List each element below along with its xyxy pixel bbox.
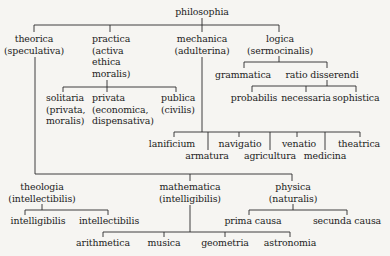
node-label: ratio disserendi [285, 69, 358, 81]
node-grammatica: grammatica [215, 69, 271, 81]
node-intelligibilis: intelligibilis [11, 215, 66, 227]
node-label: medicina [304, 150, 347, 162]
node-label: theorica [4, 33, 64, 45]
node-label: intellectibilis [79, 215, 139, 227]
node-label: geometria [201, 237, 249, 249]
node-arithmetica: arithmetica [76, 237, 130, 249]
node-sublabel: ethica [92, 56, 130, 68]
node-sublabel: moralis) [46, 115, 85, 127]
node-geometria: geometria [201, 237, 249, 249]
node-label: logica [247, 33, 313, 45]
node-theatrica: theatrica [338, 138, 380, 150]
node-publica: publica (civilis) [161, 92, 195, 115]
node-label: philosophia [175, 6, 229, 18]
node-astronomia: astronomia [264, 237, 316, 249]
node-physica: physica (naturalis) [269, 181, 318, 204]
node-label: agricultura [244, 150, 296, 162]
node-label: solitaria [46, 92, 85, 104]
node-label: sophistica [333, 92, 380, 104]
node-label: mathematica [159, 181, 221, 193]
node-label: astronomia [264, 237, 316, 249]
node-label: necessaria [281, 92, 331, 104]
node-sublabel: (sermocinalis) [247, 45, 313, 57]
node-lanificium: lanificium [149, 138, 195, 150]
node-sophistica: sophistica [333, 92, 380, 104]
node-label: musica [148, 237, 181, 249]
node-sublabel: (civilis) [161, 104, 195, 116]
node-venatio: venatio [282, 138, 316, 150]
node-sublabel: (speculativa) [4, 45, 64, 57]
node-label: arithmetica [76, 237, 130, 249]
node-agricultura: agricultura [244, 150, 296, 162]
node-sublabel: (intellectibilis) [8, 193, 75, 205]
node-ratio-disserendi: ratio disserendi [285, 69, 358, 81]
node-privata: privata (economica, dispensativa) [92, 92, 154, 127]
node-sublabel: (activa [92, 45, 130, 57]
node-label: secunda causa [313, 215, 381, 227]
node-navigatio: navigatio [218, 138, 261, 150]
node-philosophia: philosophia [175, 6, 229, 18]
node-necessaria: necessaria [281, 92, 331, 104]
node-sublabel: moralis) [92, 68, 130, 80]
node-label: probabilis [231, 92, 278, 104]
philosophia-tree-diagram: philosophia theorica (speculativa) pract… [0, 0, 390, 256]
node-label: theatrica [338, 138, 380, 150]
node-intellectibilis: intellectibilis [79, 215, 139, 227]
node-label: intelligibilis [11, 215, 66, 227]
node-sublabel: (naturalis) [269, 193, 318, 205]
node-sublabel: dispensativa) [92, 115, 154, 127]
node-sublabel: (privata, [46, 104, 85, 116]
node-sublabel: (intelligibilis) [159, 193, 221, 205]
node-musica: musica [148, 237, 181, 249]
node-mechanica: mechanica (adulterina) [174, 33, 229, 56]
node-theorica: theorica (speculativa) [4, 33, 64, 56]
node-solitaria: solitaria (privata, moralis) [46, 92, 85, 127]
node-mathematica: mathematica (intelligibilis) [159, 181, 221, 204]
node-label: theologia [8, 181, 75, 193]
node-logica: logica (sermocinalis) [247, 33, 313, 56]
node-sublabel: (economica, [92, 104, 154, 116]
node-practica: practica (activa ethica moralis) [92, 33, 130, 79]
node-secunda-causa: secunda causa [313, 215, 381, 227]
node-label: mechanica [174, 33, 229, 45]
node-label: venatio [282, 138, 316, 150]
node-label: armatura [185, 150, 229, 162]
node-label: prima causa [224, 215, 281, 227]
node-label: practica [92, 33, 130, 45]
node-prima-causa: prima causa [224, 215, 281, 227]
node-probabilis: probabilis [231, 92, 278, 104]
node-armatura: armatura [185, 150, 229, 162]
node-label: publica [161, 92, 195, 104]
node-sublabel: (adulterina) [174, 45, 229, 57]
node-label: grammatica [215, 69, 271, 81]
node-label: physica [269, 181, 318, 193]
node-theologia: theologia (intellectibilis) [8, 181, 75, 204]
node-medicina: medicina [304, 150, 347, 162]
node-label: lanificium [149, 138, 195, 150]
node-label: navigatio [218, 138, 261, 150]
node-label: privata [92, 92, 154, 104]
